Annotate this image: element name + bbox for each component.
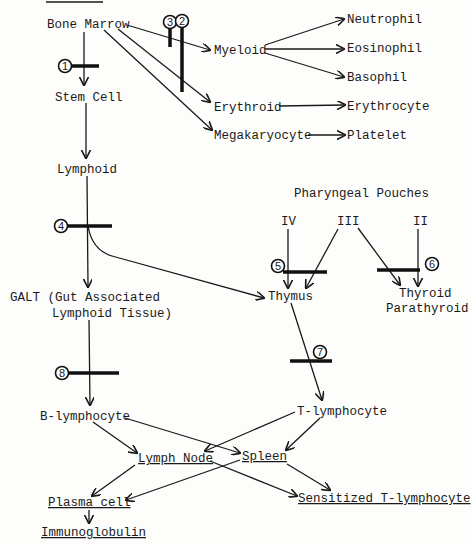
node-thymus: Thymus bbox=[268, 290, 313, 304]
edge-lymphnode-plasmacell bbox=[92, 465, 135, 496]
edge-bonemarrow-megakaryocyte bbox=[104, 30, 212, 130]
node-plasma-cell: Plasma cell bbox=[48, 496, 131, 510]
edge-galt-blymphocyte bbox=[89, 320, 90, 405]
edge-tlymphocyte-lymphnode bbox=[205, 412, 295, 451]
edge-iii-thymus bbox=[306, 229, 338, 288]
node-sensitized-t-lymphocyte: Sensitized T-lymphocyte bbox=[298, 492, 471, 506]
node-lymph-node: Lymph Node bbox=[138, 452, 213, 466]
node-stem-cell: Stem Cell bbox=[55, 91, 123, 105]
node-t-lymphocyte: T-lymphocyte bbox=[297, 405, 387, 419]
edge-spleen-sensitized bbox=[287, 464, 330, 490]
node-platelet: Platelet bbox=[347, 129, 407, 143]
node-neutrophil: Neutrophil bbox=[347, 13, 422, 27]
block-1: 1 bbox=[59, 60, 100, 73]
node-immunoglobulin: Immunoglobulin bbox=[41, 526, 146, 540]
svg-text:1: 1 bbox=[62, 60, 68, 72]
edge-erythroid-erythrocyte bbox=[279, 105, 345, 106]
node-erythrocyte: Erythrocyte bbox=[347, 100, 430, 114]
block-3: 3 bbox=[164, 16, 177, 48]
edge-lymphoid-galt bbox=[87, 176, 88, 287]
node-pharyngeal-pouches: Pharyngeal Pouches bbox=[294, 187, 429, 201]
node-basophil: Basophil bbox=[347, 71, 407, 85]
svg-text:7: 7 bbox=[317, 346, 323, 358]
edge-tlymphocyte-spleen bbox=[286, 418, 320, 450]
block-8: 8 bbox=[56, 367, 120, 380]
block-7: 7 bbox=[290, 346, 332, 362]
block-2: 2 bbox=[176, 15, 189, 93]
block-6: 6 bbox=[377, 258, 439, 271]
immune-development-diagram: 1 3 2 4 5 6 7 8 Bone Marrow Myeloid Eryt… bbox=[0, 0, 473, 545]
node-megakaryocyte: Megakaryocyte bbox=[214, 129, 312, 143]
block-5: 5 bbox=[272, 260, 328, 273]
svg-text:8: 8 bbox=[59, 367, 65, 379]
edge-bonemarrow-erythroid bbox=[118, 29, 210, 102]
node-pouch-ii: II bbox=[413, 215, 428, 229]
node-b-lymphocyte: B-lymphocyte bbox=[40, 410, 130, 424]
edge-myeloid-basophil bbox=[265, 53, 344, 77]
svg-text:5: 5 bbox=[275, 260, 281, 272]
node-parathyroid: Parathyroid bbox=[386, 302, 469, 316]
edge-iii-thyroid bbox=[358, 228, 400, 285]
svg-text:4: 4 bbox=[58, 220, 64, 232]
node-galt-line2: Lymphoid Tissue) bbox=[52, 307, 172, 321]
node-bone-marrow: Bone Marrow bbox=[47, 18, 130, 32]
node-myeloid: Myeloid bbox=[214, 44, 267, 58]
node-lymphoid: Lymphoid bbox=[57, 163, 117, 177]
edge-myeloid-neutrophil bbox=[265, 19, 344, 45]
block-4: 4 bbox=[55, 220, 113, 233]
node-erythroid: Erythroid bbox=[214, 101, 282, 115]
svg-text:6: 6 bbox=[429, 258, 435, 270]
svg-text:2: 2 bbox=[179, 15, 185, 27]
edge-blymphocyte-spleen bbox=[125, 418, 240, 453]
edge-blymphocyte-lymphnode bbox=[93, 422, 137, 453]
edge-spleen-plasmacell bbox=[126, 460, 240, 500]
edge-lymphoid-thymus bbox=[88, 226, 264, 298]
node-thyroid: Thyroid bbox=[399, 287, 452, 301]
edges bbox=[84, 19, 418, 523]
node-pouch-iv: IV bbox=[281, 215, 297, 229]
svg-text:3: 3 bbox=[167, 16, 173, 28]
node-galt-line1: GALT (Gut Associated bbox=[10, 291, 160, 305]
node-pouch-iii: III bbox=[337, 215, 360, 229]
node-spleen: Spleen bbox=[242, 450, 287, 464]
node-eosinophil: Eosinophil bbox=[347, 42, 422, 56]
